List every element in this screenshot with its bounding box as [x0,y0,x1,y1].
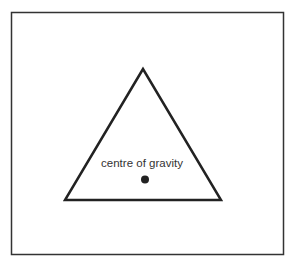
frame-border [12,13,284,255]
diagram-canvas: centre of gravity [0,0,301,267]
centre-of-gravity-label: centre of gravity [101,157,183,169]
centre-of-gravity-dot [141,176,149,184]
